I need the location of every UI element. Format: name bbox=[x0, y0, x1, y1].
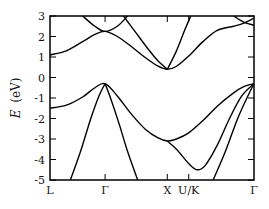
band-line bbox=[50, 18, 254, 69]
y-axis-title: E (eV) bbox=[9, 78, 23, 120]
x-kpoint-label: U/K bbox=[178, 184, 200, 197]
y-tick-label: 3 bbox=[38, 10, 45, 23]
band-line bbox=[167, 16, 190, 69]
y-tick-label: -5 bbox=[34, 174, 45, 187]
band-line bbox=[167, 84, 254, 170]
y-tick-label: 1 bbox=[38, 51, 45, 64]
band-line bbox=[70, 84, 105, 180]
band-structure-chart: 3210-1-2-3-4-5 LΓXU/KΓ E (eV) bbox=[0, 0, 269, 209]
x-axis-ticks: LΓXU/KΓ bbox=[46, 16, 258, 197]
y-tick-label: 0 bbox=[38, 72, 45, 85]
x-kpoint-label: X bbox=[163, 184, 171, 197]
y-tick-label: -1 bbox=[34, 92, 45, 105]
y-tick-label: -4 bbox=[34, 154, 45, 167]
band-curves bbox=[50, 16, 254, 180]
x-kpoint-label: Γ bbox=[101, 184, 109, 197]
band-line bbox=[123, 16, 167, 69]
y-tick-label: -3 bbox=[34, 133, 45, 146]
x-kpoint-label: L bbox=[46, 184, 54, 197]
y-tick-label: 2 bbox=[38, 31, 45, 44]
y-tick-label: -2 bbox=[34, 113, 45, 126]
band-line bbox=[213, 84, 254, 180]
x-kpoint-label: Γ bbox=[250, 184, 258, 197]
band-line bbox=[105, 84, 138, 180]
